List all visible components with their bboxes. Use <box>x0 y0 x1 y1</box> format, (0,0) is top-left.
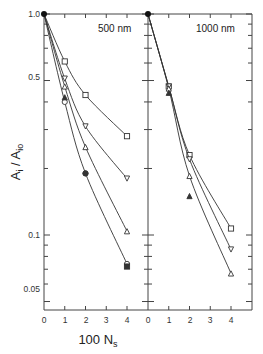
y-tick-label-0.05: 0.05 <box>23 284 40 294</box>
triangle-up-filled-marker <box>187 193 192 198</box>
triangle-down-open-marker <box>228 247 233 252</box>
series-line-open-up-triangle <box>148 14 231 273</box>
triangle-up-open-marker <box>228 271 233 276</box>
x-tick-label: 4 <box>125 315 130 325</box>
square-open-marker <box>83 92 88 97</box>
x-tick-label: 1 <box>167 315 172 325</box>
y-tick-label-0.5: 0.5 <box>28 72 40 82</box>
x-tick-labels-left: 0 1 2 3 4 <box>42 315 130 325</box>
triangle-up-open-marker <box>187 173 192 178</box>
x-tick-label: 1 <box>63 315 68 325</box>
square-open-marker <box>124 134 129 139</box>
series-line-open-down-triangle <box>148 14 231 249</box>
square-open-marker <box>228 226 233 231</box>
square-open-marker <box>62 59 67 64</box>
y-axis-title: Ai / Aio <box>8 144 25 180</box>
triangle-down-open-marker <box>83 124 88 129</box>
x-tick-label: 0 <box>146 315 151 325</box>
origin-point-marker <box>41 11 47 17</box>
x-tick-label: 3 <box>104 315 109 325</box>
y-tick-label-1.0: 1.0 <box>28 9 40 19</box>
x-tick-labels-right: 0 1 2 3 4 <box>146 315 234 325</box>
axes-frame <box>44 14 252 310</box>
data-series <box>41 11 234 276</box>
y-tick-label-0.1: 0.1 <box>28 230 40 240</box>
series-line-open-circle <box>44 14 127 264</box>
panel-label-500nm: 500 nm <box>98 23 131 34</box>
x-tick-label: 3 <box>208 315 213 325</box>
series-line-open-up-triangle <box>44 14 127 231</box>
triangle-up-open-marker <box>83 144 88 149</box>
y-tick-labels: 1.0 0.5 0.1 0.05 <box>23 9 40 294</box>
triangle-down-open-marker <box>124 176 129 181</box>
x-tick-label: 0 <box>42 315 47 325</box>
origin-point-marker <box>145 11 151 17</box>
x-tick-label: 2 <box>84 315 89 325</box>
x-axis-title: 100 Ns <box>78 332 118 349</box>
square-filled-marker <box>124 264 129 269</box>
x-tick-label: 2 <box>188 315 193 325</box>
circle-filled-marker <box>83 171 88 176</box>
x-tick-label: 4 <box>229 315 234 325</box>
triangle-up-open-marker <box>124 229 129 234</box>
panel-label-1000nm: 1000 nm <box>196 23 235 34</box>
chart-canvas: 1.0 0.5 0.1 0.05 0 1 2 3 4 0 1 2 3 4 500… <box>0 0 263 354</box>
